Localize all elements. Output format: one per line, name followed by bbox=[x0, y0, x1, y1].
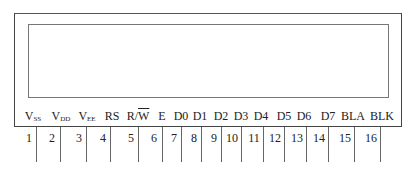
pin-number-3: 3 bbox=[76, 132, 82, 144]
pin-label-vdd: VDD bbox=[52, 110, 71, 124]
pin-label-rs: RS bbox=[105, 110, 120, 122]
pin-label-d5: D5 bbox=[277, 110, 292, 122]
pin-number-10: 10 bbox=[226, 132, 238, 144]
pin-line-14 bbox=[328, 127, 329, 162]
pin-number-8: 8 bbox=[191, 132, 197, 144]
pin-number-12: 12 bbox=[269, 132, 281, 144]
pin-number-9: 9 bbox=[211, 132, 217, 144]
pin-line-9 bbox=[221, 127, 222, 162]
pin-label-blk: BLK bbox=[370, 110, 394, 122]
pin-label-bla: BLA bbox=[341, 110, 365, 122]
pin-label-vee: VEE bbox=[78, 110, 95, 124]
pin-line-16 bbox=[380, 127, 381, 162]
pin-number-4: 4 bbox=[100, 132, 106, 144]
pin-label-d1: D1 bbox=[193, 110, 208, 122]
pin-label-d0: D0 bbox=[174, 110, 189, 122]
pin-line-5 bbox=[138, 127, 139, 162]
pin-label-d2: D2 bbox=[214, 110, 229, 122]
pin-line-2 bbox=[60, 127, 61, 162]
pin-label-rw: R/W bbox=[127, 110, 150, 122]
pin-line-12 bbox=[284, 127, 285, 162]
pin-number-1: 1 bbox=[26, 132, 32, 144]
pin-label-d3: D3 bbox=[234, 110, 249, 122]
pin-number-5: 5 bbox=[128, 132, 134, 144]
pin-line-13 bbox=[306, 127, 307, 162]
pin-line-1 bbox=[36, 127, 37, 162]
pin-line-10 bbox=[241, 127, 242, 162]
pin-line-11 bbox=[263, 127, 264, 162]
pin-label-d7: D7 bbox=[321, 110, 336, 122]
pin-number-2: 2 bbox=[49, 132, 55, 144]
pin-line-15 bbox=[354, 127, 355, 162]
pin-label-d6: D6 bbox=[297, 110, 312, 122]
pin-line-8 bbox=[201, 127, 202, 162]
pin-label-vss: VSS bbox=[25, 110, 41, 124]
pin-number-11: 11 bbox=[248, 132, 260, 144]
pin-label-e: E bbox=[158, 110, 165, 122]
pin-number-13: 13 bbox=[291, 132, 303, 144]
pin-number-14: 14 bbox=[313, 132, 325, 144]
pin-line-3 bbox=[86, 127, 87, 162]
pin-number-6: 6 bbox=[151, 132, 157, 144]
pin-line-7 bbox=[181, 127, 182, 162]
pin-line-4 bbox=[110, 127, 111, 162]
pin-number-16: 16 bbox=[365, 132, 377, 144]
pin-number-7: 7 bbox=[171, 132, 177, 144]
lcd-display-area bbox=[28, 24, 389, 98]
pin-number-15: 15 bbox=[339, 132, 351, 144]
pin-label-d4: D4 bbox=[254, 110, 269, 122]
pin-line-6 bbox=[162, 127, 163, 162]
